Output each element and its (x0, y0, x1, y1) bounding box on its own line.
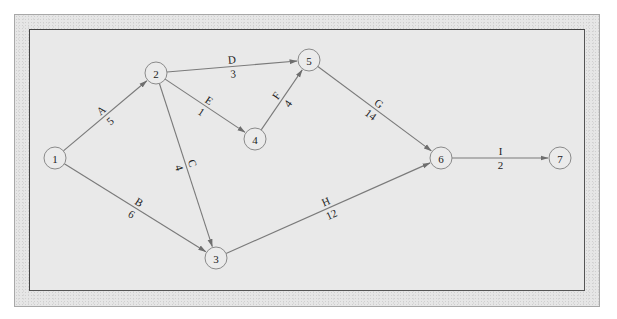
node-5: 5 (298, 49, 320, 71)
activity-label: C (186, 158, 200, 169)
node-1: 1 (44, 147, 66, 169)
edge-a: A5 (63, 81, 146, 151)
duration-label: 4 (173, 163, 186, 172)
node-label: 4 (252, 134, 258, 146)
nodes-layer: 1234567 (44, 49, 571, 269)
node-2: 2 (145, 62, 167, 84)
edge-arrow-line (261, 70, 302, 130)
node-7: 7 (549, 147, 571, 169)
edge-arrow-line (165, 79, 245, 132)
duration-label: 3 (230, 67, 237, 79)
node-label: 5 (306, 55, 312, 67)
node-label: 6 (438, 153, 444, 165)
node-label: 3 (213, 253, 219, 265)
activity-label: D (227, 53, 236, 66)
activity-label: H (320, 194, 332, 208)
network-diagram: A5B6C4D3E1F4G14H12I2 1234567 (0, 0, 617, 319)
node-label: 1 (52, 153, 58, 165)
node-4: 4 (244, 128, 266, 150)
edge-d: D3 (167, 53, 297, 79)
edge-arrow-line (226, 163, 430, 254)
edge-g: G14 (318, 67, 432, 151)
edge-arrow-line (318, 67, 432, 151)
edge-i: I2 (452, 145, 548, 171)
activity-label: F (270, 90, 283, 102)
edge-e: E1 (165, 79, 245, 132)
edge-arrow-line (64, 164, 205, 252)
node-label: 2 (153, 68, 159, 80)
node-3: 3 (205, 247, 227, 269)
edge-f: F4 (261, 70, 302, 130)
node-6: 6 (430, 147, 452, 169)
duration-label: 2 (498, 159, 504, 171)
edges-layer: A5B6C4D3E1F4G14H12I2 (63, 53, 548, 253)
duration-label: 4 (281, 97, 294, 109)
edge-arrow-line (63, 81, 146, 151)
activity-label: I (499, 145, 503, 157)
duration-label: 5 (104, 114, 116, 127)
edge-b: B6 (64, 164, 205, 252)
edge-h: H12 (226, 163, 430, 254)
duration-label: 6 (126, 207, 137, 220)
duration-label: 1 (196, 105, 207, 118)
node-label: 7 (557, 153, 563, 165)
